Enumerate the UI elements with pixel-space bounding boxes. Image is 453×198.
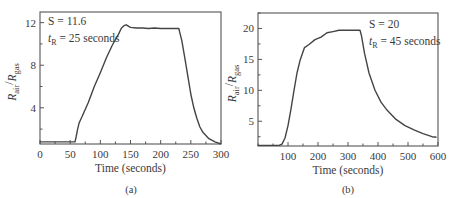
panel-label: (a): [125, 184, 137, 196]
x-axis-label: Time (seconds): [95, 162, 166, 175]
x-tick-label: 300: [340, 150, 357, 162]
sensitivity-annotation: S = 20: [369, 18, 399, 30]
y-tick-label: 12: [25, 17, 36, 29]
sensitivity-annotation: S = 11.6: [48, 15, 87, 27]
x-tick-label: 500: [400, 150, 417, 162]
y-axis-label: Rair/Rgas: [3, 63, 21, 102]
x-tick-label: 200: [152, 148, 169, 160]
y-tick-label: 5: [249, 115, 255, 127]
plot-frame: [258, 13, 438, 146]
x-tick-label: 250: [183, 148, 200, 160]
x-axis-label: Time (seconds): [313, 164, 384, 177]
y-axis-label: Rair/Rgas: [223, 65, 241, 104]
x-tick-label: 50: [65, 148, 77, 160]
chart-a: 0501001502002503004812Time (seconds)Rair…: [3, 12, 230, 196]
response-time-annotation: tR = 25 seconds: [48, 32, 120, 47]
y-tick-label: 15: [243, 53, 255, 65]
panel-label: (b): [342, 184, 355, 196]
y-tick-label: 8: [31, 59, 37, 71]
y-tick-label: 10: [243, 84, 255, 96]
x-tick-label: 300: [213, 148, 230, 160]
x-tick-label: 0: [37, 148, 43, 160]
y-tick-label: 4: [31, 102, 37, 114]
y-tick-label: 20: [243, 22, 255, 34]
chart-b: 1002003004005006005101520Time (seconds)R…: [223, 13, 447, 196]
data-line: [258, 30, 437, 145]
x-tick-label: 400: [370, 150, 387, 162]
x-tick-label: 150: [122, 148, 139, 160]
x-tick-label: 100: [280, 150, 297, 162]
x-tick-label: 100: [92, 148, 109, 160]
response-time-annotation: tR = 45 seconds: [369, 35, 441, 50]
figure: 0501001502002503004812Time (seconds)Rair…: [0, 0, 453, 198]
x-tick-label: 200: [310, 150, 327, 162]
x-tick-label: 600: [430, 150, 447, 162]
